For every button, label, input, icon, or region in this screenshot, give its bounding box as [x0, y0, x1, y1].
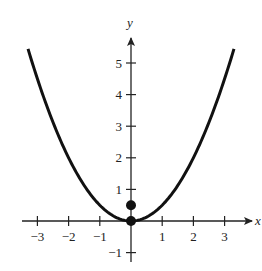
x-tick-label: 3 — [221, 229, 228, 244]
y-axis-label: y — [125, 15, 133, 30]
x-tick-label: 1 — [159, 229, 166, 244]
vertex-point — [126, 216, 136, 226]
y-ticks: −112345 — [108, 56, 136, 261]
x-axis-label: x — [254, 213, 261, 228]
x-tick-label: 2 — [190, 229, 197, 244]
axes — [22, 38, 252, 262]
x-tick-label: −1 — [93, 229, 107, 244]
y-tick-label: 1 — [116, 182, 123, 197]
y-tick-label: 4 — [116, 87, 123, 102]
y-tick-label: 5 — [116, 56, 123, 71]
y-tick-label: 2 — [116, 150, 123, 165]
y-tick-label: −1 — [108, 245, 122, 260]
y-tick-label: 3 — [116, 119, 123, 134]
x-tick-label: −2 — [62, 229, 76, 244]
focus-point — [126, 200, 136, 210]
parabola-chart: −3−2−1123 −112345 x y — [0, 0, 262, 271]
x-tick-label: −3 — [30, 229, 44, 244]
